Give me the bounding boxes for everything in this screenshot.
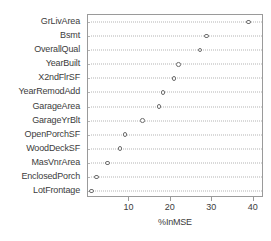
- data-point-garagearea: [157, 104, 162, 109]
- y-axis-category-labels: GrLivAreaBsmtOverallQualYearBuiltX2ndFlr…: [0, 14, 84, 197]
- y-axis-label-wooddecksf: WoodDeckSF: [26, 143, 80, 152]
- y-axis-label-garagearea: GarageArea: [32, 101, 80, 110]
- plot-area: [87, 14, 263, 197]
- grid-line: [88, 106, 262, 107]
- x-axis-tick: [253, 197, 254, 201]
- grid-line: [88, 50, 262, 51]
- data-point-grlivarea: [246, 20, 251, 25]
- grid-line: [88, 120, 262, 121]
- y-axis-label-bsmt: Bsmt: [60, 31, 80, 40]
- data-point-bsmt: [204, 34, 209, 39]
- y-axis-label-enclosedporch: EnclosedPorch: [21, 171, 80, 180]
- grid-line: [88, 22, 262, 23]
- y-axis-label-masvnrarea: MasVnrArea: [31, 157, 80, 166]
- data-point-garageyrblt: [140, 118, 145, 123]
- grid-line: [88, 92, 262, 93]
- data-point-yearremodadd: [161, 90, 166, 95]
- y-axis-label-yearbuilt: YearBuilt: [46, 59, 80, 68]
- y-axis-label-yearremodadd: YearRemodAdd: [19, 87, 80, 96]
- plot-inner-canvas: [88, 15, 262, 196]
- grid-line: [88, 64, 262, 65]
- grid-line: [88, 36, 262, 37]
- x-axis-tick: [128, 197, 129, 201]
- x-axis-tick: [211, 197, 212, 201]
- y-axis-label-garageyrblt: GarageYrBlt: [32, 115, 80, 124]
- x-axis-tick-label: 40: [248, 202, 258, 212]
- y-axis-label-grlivarea: GrLivArea: [41, 17, 80, 26]
- x-axis: %InMSE 10203040: [87, 197, 263, 241]
- y-axis-label-lotfrontage: LotFrontage: [33, 185, 80, 194]
- grid-line: [88, 134, 262, 135]
- y-axis-label-x2ndflrsf: X2ndFlrSF: [38, 73, 80, 82]
- y-axis-label-overallqual: OverallQual: [34, 45, 80, 54]
- grid-line: [88, 148, 262, 149]
- x-axis-tick: [170, 197, 171, 201]
- grid-line: [88, 190, 262, 191]
- data-point-overallqual: [198, 48, 203, 53]
- y-axis-label-openporchsf: OpenPorchSF: [25, 129, 80, 138]
- grid-line: [88, 162, 262, 163]
- x-axis-tick-label: 10: [123, 202, 133, 212]
- data-point-openporchsf: [123, 132, 128, 137]
- x-axis-tick-label: 20: [165, 202, 175, 212]
- data-point-masvnrarea: [105, 161, 110, 166]
- data-point-enclosedporch: [94, 175, 99, 180]
- x-axis-title: %InMSE: [87, 217, 263, 227]
- data-point-x2ndflrsf: [172, 76, 177, 81]
- grid-line: [88, 176, 262, 177]
- data-point-yearbuilt: [176, 62, 181, 67]
- data-point-lotfrontage: [89, 189, 94, 194]
- data-point-wooddecksf: [118, 146, 123, 151]
- x-axis-tick-label: 30: [206, 202, 216, 212]
- variable-importance-dotplot: GrLivAreaBsmtOverallQualYearBuiltX2ndFlr…: [0, 0, 271, 241]
